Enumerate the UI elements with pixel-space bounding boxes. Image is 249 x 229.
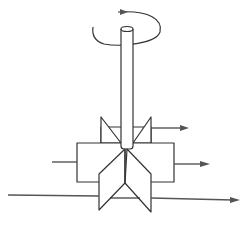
impeller-diagram bbox=[0, 0, 249, 229]
bottom-through-flow-arrow-icon bbox=[8, 195, 240, 203]
middle-outflow-arrow-icon bbox=[174, 161, 210, 167]
shaft bbox=[121, 27, 133, 150]
upper-outflow-arrow-icon bbox=[151, 125, 189, 131]
